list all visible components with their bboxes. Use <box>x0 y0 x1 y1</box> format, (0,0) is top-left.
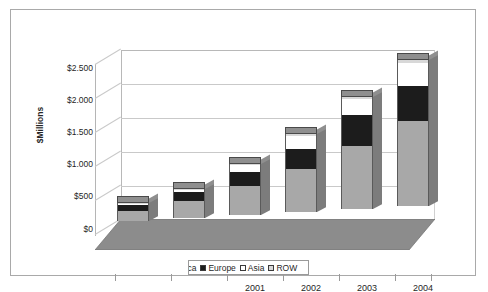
y-axis-tick-labels: $2.500 $2.000 $1.500 $1.000 $500 $0 <box>31 10 93 277</box>
bar-5-segment-america <box>341 146 373 209</box>
x-tick-2002: 2002 <box>288 283 334 292</box>
plot-left-edge <box>95 64 96 236</box>
x-tick-2001: 2001 <box>232 283 278 292</box>
bar-6-segment-asia <box>397 63 429 86</box>
legend-item-europe[interactable]: Europe <box>200 263 235 273</box>
bar-4-segment-europe <box>285 149 317 169</box>
legend-swatch-asia <box>240 265 246 271</box>
plot-area: 2001 2002 2003 2004 <box>95 50 435 235</box>
bar-2-side-face <box>205 184 214 218</box>
bar-2-segment-america <box>173 201 205 218</box>
bar-3-segment-america <box>229 186 261 215</box>
bar-4-segment-asia <box>285 136 317 149</box>
legend-label-row: ROW <box>276 263 297 273</box>
x-tickmark-3 <box>227 274 228 281</box>
x-tickmark-7 <box>431 274 432 281</box>
bar-3-segment-europe <box>229 172 261 186</box>
gridline-1500 <box>121 118 435 119</box>
bar-group-2[interactable] <box>173 189 205 218</box>
bar-4-side-face <box>317 129 326 212</box>
bar-5-top-lid <box>341 90 373 97</box>
slant-2500 <box>95 49 121 65</box>
y-tick-1000: $1.000 <box>31 159 93 169</box>
chart-legend[interactable]: erica Europe Asia ROW <box>188 260 309 275</box>
gridline-2000 <box>121 84 435 85</box>
bar-3-segment-asia <box>229 165 261 172</box>
bar-6-top-lid <box>397 53 429 60</box>
legend-label-asia: Asia <box>248 263 265 273</box>
x-tickmark-6 <box>395 274 396 281</box>
legend-label-america: erica <box>188 263 196 273</box>
bar-group-5[interactable] <box>341 97 373 209</box>
bar-2-segment-europe <box>173 192 205 201</box>
stacked-column-chart: $Millions $2.500 $2.000 $1.500 $1.000 $5… <box>11 10 477 277</box>
slant-1500 <box>95 117 121 133</box>
bar-1-top-lid <box>117 196 149 203</box>
x-tick-2004: 2004 <box>400 283 446 292</box>
y-tick-500: $500 <box>31 191 93 201</box>
y-tick-0: $0 <box>31 224 93 234</box>
legend-swatch-europe <box>200 265 206 271</box>
bar-2-top-lid <box>173 182 205 189</box>
slant-2000 <box>95 83 121 99</box>
bar-group-1[interactable] <box>117 203 149 221</box>
bar-1-segment-america <box>117 211 149 221</box>
bar-6-segment-europe <box>397 86 429 121</box>
y-tick-2000: $2.000 <box>31 95 93 105</box>
legend-item-america[interactable]: erica <box>188 263 196 273</box>
bar-4-top-lid <box>285 127 317 134</box>
legend-item-asia[interactable]: Asia <box>240 263 265 273</box>
x-tick-2003: 2003 <box>344 283 390 292</box>
bar-5-segment-europe <box>341 115 373 146</box>
legend-swatch-row <box>268 265 274 271</box>
gridline-1000 <box>121 152 435 153</box>
bar-4-segment-america <box>285 169 317 212</box>
chart-frame: $Millions $2.500 $2.000 $1.500 $1.000 $5… <box>10 9 476 276</box>
legend-label-europe: Europe <box>208 263 235 273</box>
gridline-500 <box>121 186 435 187</box>
bar-5-side-face <box>373 92 382 209</box>
x-tickmark-2 <box>171 274 172 281</box>
floor-polygon <box>95 219 435 250</box>
bar-3-side-face <box>261 159 270 215</box>
legend-item-row[interactable]: ROW <box>268 263 297 273</box>
y-tick-1500: $1.500 <box>31 127 93 137</box>
x-tickmark-4 <box>283 274 284 281</box>
slant-1000 <box>95 151 121 167</box>
x-tickmark-1 <box>115 274 116 281</box>
bar-3-top-lid <box>229 157 261 164</box>
y-tick-2500: $2.500 <box>31 63 93 73</box>
bar-group-6[interactable] <box>397 60 429 206</box>
x-tickmark-5 <box>339 274 340 281</box>
plot-back-wall <box>121 50 435 220</box>
bar-6-segment-america <box>397 121 429 206</box>
plot-floor <box>95 219 435 250</box>
bar-group-3[interactable] <box>229 164 261 215</box>
bar-5-segment-asia <box>341 99 373 115</box>
bar-group-4[interactable] <box>285 134 317 212</box>
bar-6-side-face <box>429 55 438 206</box>
